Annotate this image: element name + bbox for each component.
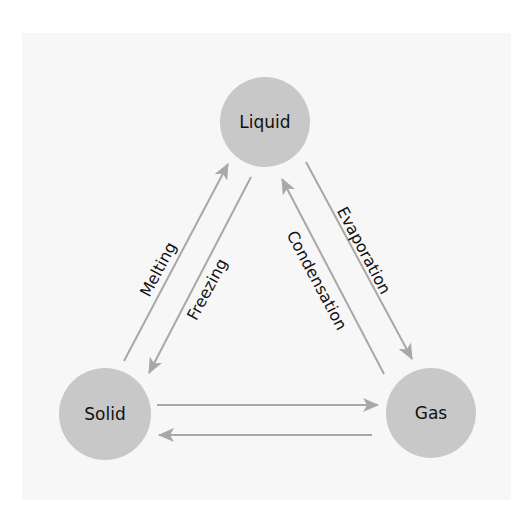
node-liquid-label: Liquid [239,112,290,132]
phase-transition-diagram: Melting Freezing Evaporation Condensatio… [0,0,531,515]
node-gas: Gas [386,368,476,458]
condensation-label: Condensation [283,227,351,333]
node-gas-label: Gas [415,403,448,423]
node-solid: Solid [59,368,151,460]
freezing-label: Freezing [183,255,231,323]
melting-label: Melting [136,239,181,300]
evaporation-label: Evaporation [333,203,395,297]
node-solid-label: Solid [84,404,125,424]
node-liquid: Liquid [220,77,310,167]
